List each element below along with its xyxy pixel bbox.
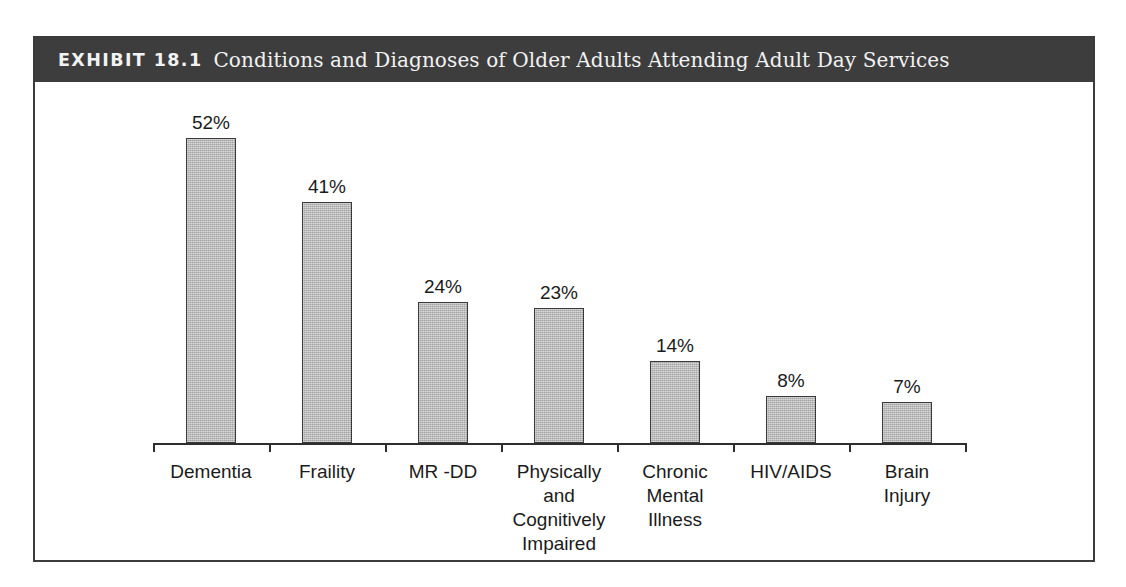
x-axis-tick [385, 443, 387, 452]
x-axis-tick [269, 443, 271, 452]
category-label-line: Cognitively [501, 508, 617, 532]
exhibit-frame: EXHIBIT 18.1 Conditions and Diagnoses of… [33, 36, 1095, 562]
category-label-line: Dementia [153, 460, 269, 484]
bar-value-label: 8% [746, 370, 836, 392]
category-label-line: Impaired [501, 532, 617, 556]
bar-value-label: 41% [282, 176, 372, 198]
category-label-line: MR -DD [385, 460, 501, 484]
bar [534, 308, 584, 443]
bar-value-label: 52% [166, 112, 256, 134]
x-axis-tick [965, 443, 967, 452]
bar [186, 138, 236, 443]
bar-value-label: 14% [630, 335, 720, 357]
x-axis-tick [849, 443, 851, 452]
category-label: Dementia [153, 460, 269, 484]
category-label-line: Illness [617, 508, 733, 532]
x-axis-tick [153, 443, 155, 452]
category-label-line: Mental [617, 484, 733, 508]
x-axis-tick [501, 443, 503, 452]
category-label-line: Physically and [501, 460, 617, 508]
category-label: MR -DD [385, 460, 501, 484]
bar-chart-plot-area: 52%41%24%23%14%8%7% DementiaFrailityMR -… [35, 82, 1093, 560]
exhibit-header: EXHIBIT 18.1 Conditions and Diagnoses of… [35, 38, 1093, 82]
bar [302, 202, 352, 443]
category-label: Physically andCognitivelyImpaired [501, 460, 617, 556]
x-axis-line [153, 443, 965, 445]
bar [882, 402, 932, 443]
bar [766, 396, 816, 443]
bar-value-label: 23% [514, 282, 604, 304]
bar-value-label: 7% [862, 376, 952, 398]
category-label-line: Chronic [617, 460, 733, 484]
bar-value-label: 24% [398, 276, 488, 298]
category-label: HIV/AIDS [733, 460, 849, 484]
exhibit-title: Conditions and Diagnoses of Older Adults… [213, 48, 949, 72]
category-label-line: Injury [849, 484, 965, 508]
bar [418, 302, 468, 443]
x-axis-tick [733, 443, 735, 452]
exhibit-number-label: EXHIBIT 18.1 [58, 50, 202, 70]
category-label-line: Brain [849, 460, 965, 484]
x-axis-tick [617, 443, 619, 452]
category-label: BrainInjury [849, 460, 965, 508]
category-label: ChronicMentalIllness [617, 460, 733, 532]
category-label-line: Fraility [269, 460, 385, 484]
category-label: Fraility [269, 460, 385, 484]
category-label-line: HIV/AIDS [733, 460, 849, 484]
bar [650, 361, 700, 443]
